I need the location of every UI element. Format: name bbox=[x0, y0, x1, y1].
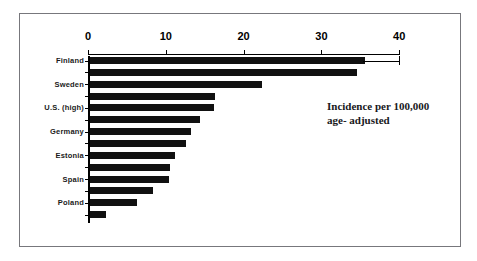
x-axis-tick-label: 30 bbox=[306, 30, 336, 42]
bar bbox=[90, 57, 365, 64]
error-bar-line bbox=[363, 61, 399, 62]
y-axis-tick bbox=[85, 215, 89, 216]
chart-figure: 010203040 FinlandSwedenU.S. (high)German… bbox=[0, 0, 477, 261]
bar bbox=[90, 152, 175, 159]
x-axis-tick-label: 20 bbox=[229, 30, 259, 42]
x-axis-tick-label: 40 bbox=[384, 30, 414, 42]
x-axis-tick-label: 10 bbox=[151, 30, 181, 42]
x-axis-tick bbox=[88, 50, 89, 55]
y-axis-label-text: Poland bbox=[0, 198, 84, 207]
plot-area: 010203040 FinlandSwedenU.S. (high)German… bbox=[0, 0, 477, 261]
y-axis-label-text: Spain bbox=[0, 175, 84, 184]
y-axis-tick bbox=[85, 203, 89, 204]
y-axis-tick bbox=[85, 120, 89, 121]
y-axis-tick bbox=[85, 167, 89, 168]
chart-annotation: Incidence per 100,000 age- adjusted bbox=[327, 99, 429, 127]
x-axis-tick bbox=[244, 50, 245, 55]
bar bbox=[90, 199, 137, 206]
bar bbox=[90, 140, 186, 147]
y-axis-tick bbox=[85, 108, 89, 109]
y-axis-label-sweden: Sweden bbox=[0, 80, 84, 90]
bar bbox=[90, 93, 215, 100]
y-axis-label-text: Finland bbox=[0, 56, 84, 65]
y-axis-label-spain: Spain bbox=[0, 175, 84, 185]
y-axis-tick bbox=[85, 155, 89, 156]
bar bbox=[90, 116, 200, 123]
bar bbox=[90, 104, 214, 111]
y-axis-label-estonia: Estonia bbox=[0, 151, 84, 161]
y-axis-label-finland: Finland bbox=[0, 56, 84, 66]
bar bbox=[90, 81, 262, 88]
bar bbox=[90, 187, 153, 194]
y-axis-label-u-s-high: U.S. (high) bbox=[0, 103, 84, 113]
bar bbox=[90, 69, 357, 76]
annotation-line-1: Incidence per 100,000 bbox=[327, 99, 429, 113]
y-axis-tick bbox=[85, 61, 89, 62]
y-axis-label-text: Germany bbox=[0, 127, 84, 136]
x-axis-tick bbox=[166, 50, 167, 55]
y-axis-tick bbox=[85, 191, 89, 192]
y-axis-tick bbox=[85, 132, 89, 133]
y-axis-tick bbox=[85, 72, 89, 73]
x-axis-tick bbox=[399, 50, 400, 55]
bar bbox=[90, 176, 169, 183]
y-axis-label-germany: Germany bbox=[0, 127, 84, 137]
y-axis-label-poland: Poland bbox=[0, 198, 84, 208]
y-axis-tick bbox=[85, 96, 89, 97]
bar bbox=[90, 164, 170, 171]
error-bar-cap bbox=[399, 56, 400, 65]
y-axis-tick bbox=[85, 179, 89, 180]
y-axis-label-text: U.S. (high) bbox=[0, 103, 84, 112]
y-axis-tick bbox=[85, 84, 89, 85]
x-axis-tick bbox=[321, 50, 322, 55]
y-axis-label-text: Estonia bbox=[0, 151, 84, 160]
bar bbox=[90, 211, 106, 218]
y-axis-tick bbox=[85, 143, 89, 144]
y-axis-label-text: Sweden bbox=[0, 80, 84, 89]
annotation-line-2: age- adjusted bbox=[327, 113, 429, 127]
x-axis-tick-label: 0 bbox=[73, 30, 103, 42]
bar bbox=[90, 128, 191, 135]
